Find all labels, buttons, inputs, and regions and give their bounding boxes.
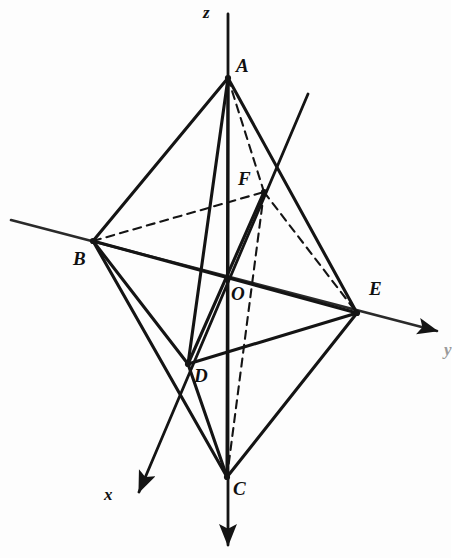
axis-label-y: y <box>444 341 452 358</box>
axis-label-x: x <box>104 486 113 503</box>
dashed-edge-BF <box>93 192 264 241</box>
vertex-label-A: A <box>236 56 249 75</box>
vertex-dot-F <box>261 189 267 195</box>
vertex-dot-B <box>90 238 96 244</box>
vertex-label-C: C <box>233 479 246 498</box>
vertex-dot-C <box>224 474 230 480</box>
edge-BD <box>93 241 188 364</box>
edge-AE <box>228 78 357 313</box>
edge-DE <box>188 313 357 364</box>
vertex-label-O: O <box>231 284 245 303</box>
vertex-dot-E <box>354 310 360 316</box>
vertex-dot-D <box>185 361 191 367</box>
vertex-dot-A <box>225 75 231 81</box>
axis-label-z: z <box>203 4 210 21</box>
vertex-label-F: F <box>238 169 251 188</box>
solid-edges-group <box>93 78 357 477</box>
edge-CE <box>227 313 357 477</box>
dashed-edge-FE <box>264 192 357 313</box>
vertex-label-B: B <box>73 249 86 268</box>
vertex-label-D: D <box>194 366 208 385</box>
vertex-label-E: E <box>369 279 382 298</box>
